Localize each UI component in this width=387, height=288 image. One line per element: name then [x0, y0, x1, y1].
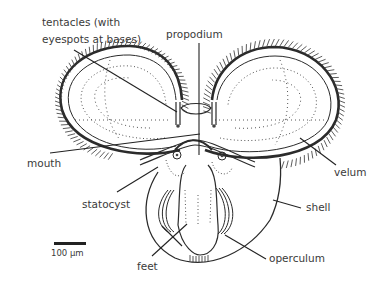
- cilium: [254, 41, 255, 49]
- cilium: [282, 161, 284, 168]
- veliger-diagram: tentacles (with eyespots at bases) propo…: [0, 0, 387, 288]
- cilium: [65, 131, 73, 132]
- cilium: [204, 94, 210, 98]
- cilium: [296, 158, 297, 166]
- label-velum: velum: [334, 166, 366, 178]
- left-velum-lobe: [60, 46, 182, 154]
- cilium: [217, 66, 221, 73]
- cilium: [230, 53, 232, 60]
- label-tentacles: tentacles (with: [42, 16, 120, 28]
- cilium: [280, 40, 284, 47]
- label-operculum: operculum: [269, 252, 325, 264]
- cilium: [100, 152, 105, 158]
- cilium: [304, 48, 310, 53]
- cilium: [95, 151, 101, 156]
- left-velum-cilia: [55, 39, 189, 160]
- cilium: [284, 40, 289, 46]
- cilium: [286, 161, 288, 168]
- label-shell: shell: [306, 201, 330, 213]
- cilium: [312, 151, 313, 159]
- cilium: [291, 160, 292, 168]
- cilium: [334, 123, 339, 128]
- statocyst-leader: [117, 167, 158, 192]
- cilium: [205, 89, 211, 93]
- operculum: [159, 188, 233, 234]
- cilium: [315, 56, 322, 59]
- cilium: [327, 137, 331, 144]
- cilium: [271, 39, 274, 46]
- cilium: [238, 48, 239, 56]
- cilium: [329, 73, 337, 74]
- cilium: [63, 128, 71, 129]
- cilium: [104, 153, 109, 159]
- cilium: [329, 134, 333, 140]
- cilium: [331, 130, 336, 136]
- cilium: [292, 43, 297, 49]
- cilium: [108, 153, 112, 159]
- scale-bar: [54, 242, 86, 245]
- cilium: [70, 136, 77, 138]
- cilium: [212, 73, 217, 79]
- cilium: [312, 53, 319, 57]
- label-tentacles-line2: eyespots at bases): [42, 33, 141, 45]
- cilium: [263, 40, 265, 47]
- cilium: [275, 39, 279, 46]
- cilium: [267, 39, 270, 46]
- cilium: [206, 85, 212, 90]
- feet-leader-1: [152, 224, 187, 256]
- cilium: [327, 70, 335, 71]
- cilium: [318, 59, 325, 62]
- cilium: [210, 77, 215, 83]
- cilium: [214, 69, 218, 75]
- cilium: [220, 62, 223, 69]
- cilium: [288, 41, 293, 47]
- cilium: [296, 44, 302, 49]
- cilium: [258, 40, 260, 48]
- cilium: [333, 127, 338, 133]
- cilium: [226, 56, 228, 63]
- cilium: [321, 63, 328, 65]
- label-mouth: mouth: [27, 157, 61, 169]
- foot: [178, 165, 218, 262]
- label-statocyst: statocyst: [82, 198, 130, 210]
- cilium: [89, 47, 90, 54]
- cilium: [68, 134, 75, 136]
- cilium: [308, 153, 309, 161]
- cilium: [324, 140, 327, 147]
- cilium: [234, 50, 235, 57]
- label-feet: feet: [137, 260, 158, 272]
- cilium: [300, 46, 306, 51]
- tentacles: [176, 102, 216, 128]
- cilium: [250, 43, 251, 51]
- cilium: [73, 139, 80, 142]
- cilium: [223, 59, 226, 66]
- operculum-leader: [225, 235, 266, 259]
- cilium: [324, 66, 332, 68]
- cilium: [308, 51, 315, 55]
- cilium: [208, 81, 213, 86]
- label-propodium: propodium: [166, 28, 223, 40]
- cilium: [91, 149, 97, 154]
- cilium: [77, 141, 84, 144]
- cilium: [203, 98, 210, 102]
- scale-bar-label: 100 μm: [51, 248, 84, 258]
- shell-leader: [273, 200, 301, 208]
- cilium: [80, 144, 87, 148]
- cilium: [321, 143, 324, 150]
